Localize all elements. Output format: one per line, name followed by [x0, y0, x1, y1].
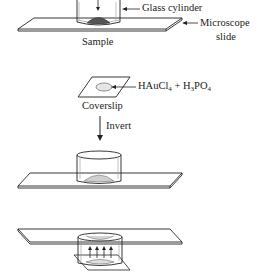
reagent-text-haucl: HAuCl — [138, 80, 168, 91]
label-sample: Sample — [82, 37, 114, 48]
label-coverslip: Coverslip — [82, 101, 123, 112]
reagent-text-po: PO — [194, 80, 207, 91]
reagent-text-plus-h: + H — [172, 80, 191, 91]
label-glass-cylinder: Glass cylinder — [142, 3, 202, 14]
reagent-droplet — [96, 83, 112, 91]
step1-glass-cylinder — [77, 0, 120, 25]
label-invert: Invert — [106, 121, 131, 132]
label-microscope: Microscope — [200, 18, 250, 29]
reagent-sub-4b: 4 — [208, 85, 212, 93]
label-reagent: HAuCl4 + H3PO4 — [138, 81, 211, 92]
diagram-canvas: Glass cylinder Microscope slide Sample H… — [0, 0, 260, 273]
invert-arrow — [97, 116, 103, 141]
label-slide: slide — [216, 32, 236, 43]
